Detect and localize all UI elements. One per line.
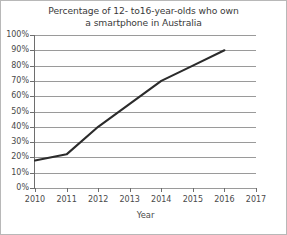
x-tick-label: 2014 — [144, 195, 178, 204]
x-tick-label: 2010 — [18, 195, 52, 204]
y-tick-mark — [30, 188, 34, 189]
y-tick-mark — [30, 157, 34, 158]
y-tick-mark — [30, 81, 34, 82]
x-tick-mark — [224, 188, 225, 192]
y-tick-mark — [30, 127, 34, 128]
x-tick-mark — [67, 188, 68, 192]
x-tick-mark — [98, 188, 99, 192]
y-tick-mark — [30, 66, 34, 67]
y-tick-mark — [30, 173, 34, 174]
x-tick-mark — [130, 188, 131, 192]
x-tick-label: 2013 — [113, 195, 147, 204]
x-tick-mark — [256, 188, 257, 192]
y-tick-mark — [30, 35, 34, 36]
x-tick-mark — [193, 188, 194, 192]
y-tick-mark — [30, 96, 34, 97]
x-tick-label: 2012 — [81, 195, 115, 204]
y-tick-mark — [30, 142, 34, 143]
x-tick-label: 2017 — [239, 195, 273, 204]
y-tick-mark — [30, 50, 34, 51]
x-tick-label: 2016 — [207, 195, 241, 204]
y-tick-mark — [30, 112, 34, 113]
x-tick-label: 2011 — [50, 195, 84, 204]
x-tick-label: 2015 — [176, 195, 210, 204]
chart-figure: Percentage of 12- to16-year-olds who own… — [0, 0, 287, 235]
x-tick-mark — [35, 188, 36, 192]
x-tick-mark — [161, 188, 162, 192]
